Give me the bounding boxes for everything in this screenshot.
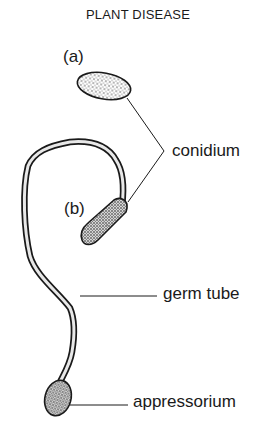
label-appressorium: appressorium — [133, 393, 236, 410]
label-germ-tube: germ tube — [163, 285, 240, 302]
panel-label-a: (a) — [63, 48, 84, 65]
conidium-leader-line — [127, 98, 164, 202]
label-conidium: conidium — [172, 142, 240, 159]
appressorium-shape — [41, 377, 75, 419]
conidium-a-shape — [75, 69, 133, 104]
fungal-germination-diagram — [0, 0, 276, 430]
germ-tube-shape — [24, 142, 123, 382]
conidium-b-shape — [81, 198, 127, 244]
panel-label-b: (b) — [64, 200, 85, 217]
